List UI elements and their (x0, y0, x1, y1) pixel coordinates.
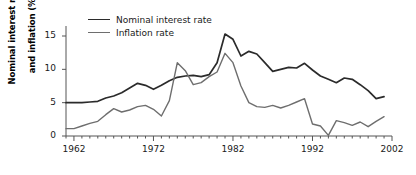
chart-axes (66, 26, 392, 136)
x-axis-tick-label: 1982 (213, 144, 253, 154)
x-axis-tick-label: 1962 (54, 144, 94, 154)
chart-legend: Nominal interest rateInflation rate (88, 13, 212, 39)
legend-item-label: Nominal interest rate (116, 15, 212, 25)
legend-line-swatch (88, 19, 110, 20)
legend-line-swatch (88, 32, 110, 33)
y-axis-tick-label: 10 (36, 63, 56, 73)
chart-series-lines (66, 34, 384, 135)
x-axis-tick-label: 1992 (292, 144, 332, 154)
y-axis-tick-label: 5 (36, 97, 56, 107)
series-line (66, 53, 384, 135)
x-axis-ticks (66, 136, 392, 141)
y-axis-tick-label: 15 (36, 30, 56, 40)
series-line (66, 34, 384, 103)
x-axis-tick-label: 2002 (372, 144, 412, 154)
legend-item-label: Inflation rate (116, 28, 174, 38)
y-axis-tick-label: 0 (36, 130, 56, 140)
chart-figure: Nominal interest rate and inflation (%) … (0, 0, 416, 175)
x-axis-tick-label: 1972 (133, 144, 173, 154)
legend-item: Inflation rate (88, 26, 212, 39)
y-axis-ticks (62, 36, 66, 136)
legend-item: Nominal interest rate (88, 13, 212, 26)
